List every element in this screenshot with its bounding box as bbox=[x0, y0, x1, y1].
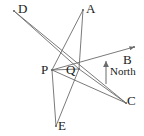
vertex-dot-q bbox=[78, 68, 80, 70]
vertex-dot-p bbox=[51, 69, 53, 71]
segment-a-q bbox=[79, 10, 83, 69]
segment-d-c bbox=[14, 11, 126, 103]
point-label-c: C bbox=[127, 94, 136, 107]
north-label: North bbox=[110, 66, 136, 77]
point-label-d: D bbox=[18, 2, 27, 15]
vertex-dot-e bbox=[55, 125, 57, 127]
geometry-diagram: D A B C P Q E North bbox=[0, 0, 144, 136]
point-label-a: A bbox=[86, 2, 95, 15]
segment-d-q bbox=[14, 11, 79, 69]
point-label-p: P bbox=[41, 63, 48, 76]
segment-p-e bbox=[52, 70, 56, 126]
segment-a-p bbox=[52, 10, 83, 70]
point-label-q: Q bbox=[66, 63, 75, 76]
vertex-dot-b bbox=[133, 46, 135, 48]
point-label-e: E bbox=[58, 119, 66, 132]
vertex-dot-a bbox=[82, 9, 84, 11]
vertex-dot-d bbox=[13, 10, 15, 12]
